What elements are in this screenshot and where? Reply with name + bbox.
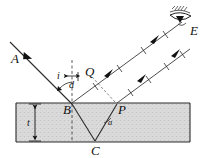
label-P: P <box>117 102 126 117</box>
label-thickness-t: t <box>27 117 30 128</box>
label-angle-a: a <box>108 117 112 127</box>
ray-diagram-canvas: A B P C Q E i d t a <box>0 0 205 158</box>
label-Q: Q <box>85 64 95 79</box>
optics-figure: A B P C Q E i d t a <box>0 0 205 158</box>
virtual-ray-PQ <box>93 78 115 102</box>
label-A: A <box>10 51 19 66</box>
label-B: B <box>63 102 71 117</box>
eye-icon <box>170 6 191 25</box>
emergent-ray-P-to-eye <box>117 49 190 103</box>
label-C: C <box>91 143 100 158</box>
label-E: E <box>189 23 198 38</box>
glass-slab <box>16 103 190 142</box>
reflected-ray-B-to-eye <box>72 22 182 103</box>
label-angle-i: i <box>57 70 60 81</box>
label-d: d <box>69 79 75 90</box>
incident-ray-AB <box>10 42 72 104</box>
